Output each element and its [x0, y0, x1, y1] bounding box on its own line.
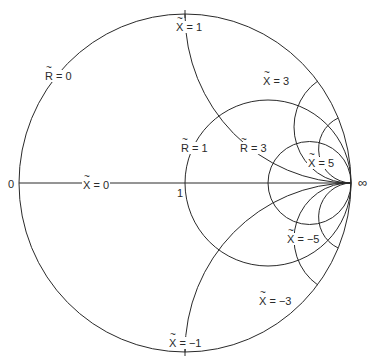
- label-x0: X = 0: [82, 179, 110, 191]
- label-x3: X = 3: [262, 75, 290, 87]
- axis-label-one: 1: [177, 187, 183, 199]
- reactance-arc-xm1: [185, 183, 351, 352]
- axis-label-zero: 0: [8, 178, 14, 190]
- smith-chart: [0, 0, 375, 360]
- axis-label-infinity: ∞: [358, 177, 367, 189]
- label-xm1: X = −1: [168, 337, 202, 349]
- label-r3: R = 3: [239, 142, 268, 154]
- label-r1: R = 1: [180, 142, 209, 154]
- label-xm3: X = −3: [258, 295, 292, 307]
- label-xm5: X = −5: [286, 233, 320, 245]
- label-x1: X = 1: [175, 21, 203, 33]
- label-r0: R = 0: [44, 70, 73, 82]
- label-x5: X = 5: [307, 157, 335, 169]
